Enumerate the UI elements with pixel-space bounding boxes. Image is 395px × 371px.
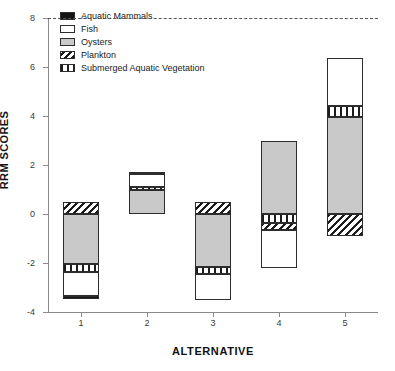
x-tick — [279, 312, 280, 317]
y-tick — [43, 214, 48, 215]
bar-segment — [261, 223, 297, 230]
x-tick — [345, 312, 346, 317]
y-tick-label: 8 — [30, 13, 35, 23]
bar-segment — [261, 230, 297, 268]
bar-segment — [63, 202, 99, 214]
bar-segment — [327, 106, 363, 117]
y-tick-label: 4 — [30, 111, 35, 121]
bar-segment — [261, 141, 297, 215]
y-tick — [43, 67, 48, 68]
bar-segment — [195, 214, 231, 267]
plot-area: 86420-2-4 12345 — [48, 18, 378, 312]
bar-segment — [63, 264, 99, 271]
bar-segment — [129, 174, 165, 187]
bar-segment — [327, 214, 363, 236]
y-axis-line — [48, 18, 49, 312]
chart-figure: Aquatic MammalsFishOystersPlanktonSubmer… — [0, 0, 395, 371]
x-tick — [147, 312, 148, 317]
bar-segment — [63, 214, 99, 264]
y-tick — [43, 263, 48, 264]
x-tick — [213, 312, 214, 317]
bar-segment — [63, 272, 99, 297]
bar-segment — [63, 296, 99, 299]
x-tick-label: 5 — [342, 318, 347, 328]
y-tick-label: -2 — [27, 258, 35, 268]
y-axis-title: RRM SCORES — [0, 111, 10, 190]
x-axis-title: ALTERNATIVE — [48, 345, 378, 357]
x-tick — [81, 312, 82, 317]
y-tick — [43, 18, 48, 19]
y-tick — [43, 312, 48, 313]
bar-segment — [195, 202, 231, 214]
y-tick — [43, 116, 48, 117]
x-tick-label: 3 — [210, 318, 215, 328]
bar-stack — [327, 18, 363, 312]
y-tick-label: 0 — [30, 209, 35, 219]
bar-segment — [129, 190, 165, 214]
y-tick-label: -4 — [27, 307, 35, 317]
x-tick-label: 2 — [144, 318, 149, 328]
bar-segment — [129, 187, 165, 190]
bar-stack — [129, 18, 165, 312]
bar-segment — [195, 274, 231, 301]
y-tick — [43, 165, 48, 166]
y-tick-label: 6 — [30, 62, 35, 72]
bar-segment — [327, 58, 363, 106]
bar-segment — [195, 267, 231, 274]
bar-stack — [63, 18, 99, 312]
x-tick-label: 4 — [276, 318, 281, 328]
x-tick-label: 1 — [78, 318, 83, 328]
bar-stack — [195, 18, 231, 312]
bar-segment — [327, 117, 363, 214]
y-tick-label: 2 — [30, 160, 35, 170]
bar-stack — [261, 18, 297, 312]
bar-segment — [129, 172, 165, 174]
bar-segment — [261, 214, 297, 223]
